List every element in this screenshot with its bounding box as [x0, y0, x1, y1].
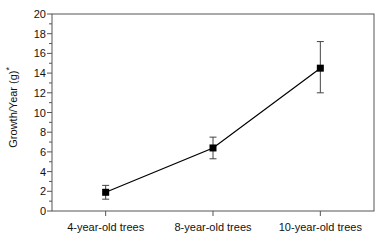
data-point-marker — [317, 65, 324, 72]
x-axis-tick-label: 4-year-old trees — [67, 221, 144, 233]
data-point-marker — [210, 144, 217, 151]
chart-figure: Growth/Year (g)* 02468101214161820 4-yea… — [0, 0, 390, 245]
plot-frame — [52, 14, 374, 211]
x-axis-tick-marks — [106, 211, 321, 216]
plot-area — [0, 0, 390, 245]
x-axis-tick-label: 10-year-old trees — [279, 221, 362, 233]
data-point-marker — [102, 189, 109, 196]
y-axis-tick-marks — [47, 14, 52, 211]
x-axis-tick-label: 8-year-old trees — [174, 221, 251, 233]
